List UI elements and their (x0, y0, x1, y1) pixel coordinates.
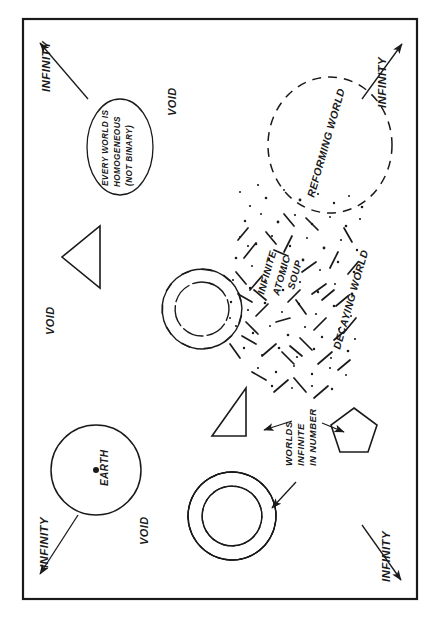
infinity-label-top-right: INFINITY (376, 56, 388, 108)
earth-group: EARTH (51, 425, 141, 515)
galaxy-upper (153, 260, 250, 356)
reforming-world-group: REFORMING WORLD (268, 77, 392, 213)
arrow-to-galaxy (272, 482, 296, 508)
diagram-frame (23, 19, 417, 599)
homogeneous-line-2: HOMOGENEOUS (113, 116, 122, 187)
worlds-line-1: WORLDS (283, 421, 294, 466)
triangle-world-lower (212, 388, 246, 436)
void-label-lower: VOID (138, 517, 150, 546)
homogeneous-line-1: EVERY WORLD IS (101, 110, 110, 186)
cosmology-diagram-svg: INFINITY INFINITY INFINITY INFINITY EVER… (0, 0, 440, 624)
worlds-line-2: INFINITE (295, 423, 306, 466)
diagram-canvas: INFINITY INFINITY INFINITY INFINITY EVER… (0, 0, 440, 624)
earth-label: EARTH (99, 449, 110, 486)
homogeneous-callout: EVERY WORLD IS HOMOGENEOUS (NOT BINARY) (87, 99, 153, 195)
infinity-arrow-bottom-right: INFINITY (362, 525, 401, 582)
homogeneous-line-3: (NOT BINARY) (125, 125, 134, 186)
infinity-arrow-bottom-left: INFINITY (38, 515, 78, 574)
atomic-soup-strokes (230, 214, 358, 398)
atomic-soup-label: INFINITE ATOMIC SOUP (255, 249, 304, 297)
triangle-world-upper (62, 226, 100, 288)
infinity-label-bottom-right: INFINITY (380, 530, 392, 582)
infinity-arrow-top-left: INFINITY (40, 40, 88, 99)
galaxy-lower (178, 462, 286, 569)
infinity-label-top-left: INFINITY (40, 40, 52, 92)
infinity-label-bottom-left: INFINITY (38, 516, 50, 568)
decaying-world-label: DECAYING WORLD (330, 248, 370, 350)
worlds-line-3: IN NUMBER (307, 409, 318, 466)
infinity-arrow-top-right: INFINITY (362, 44, 402, 108)
reforming-world-label: REFORMING WORLD (304, 87, 347, 199)
void-label-upper: VOID (166, 88, 178, 117)
void-label-middle: VOID (44, 307, 56, 336)
